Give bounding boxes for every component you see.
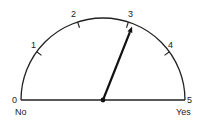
tick-label-5: 5 [187,96,192,105]
gauge-arc [21,18,185,100]
right-label-yes: Yes [176,108,191,117]
gauge-dial [0,0,203,125]
tick-mark [126,22,128,28]
tick-mark [37,52,42,56]
gauge-ticks [37,22,170,55]
tick-label-3: 3 [128,10,133,19]
tick-mark [78,22,80,28]
gauge-needle [103,32,130,100]
tick-mark [164,52,169,56]
tick-label-2: 2 [71,10,76,19]
needle-arrowhead-icon [127,27,132,34]
tick-label-4: 4 [168,41,173,50]
tick-label-0: 0 [12,96,17,105]
left-label-no: No [15,108,27,117]
needle-pivot [101,98,106,103]
tick-label-1: 1 [31,41,36,50]
